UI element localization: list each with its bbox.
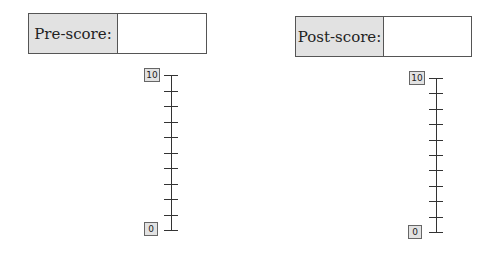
post-score-label: Post-score: bbox=[296, 17, 384, 56]
pre-scale-tick bbox=[164, 230, 178, 231]
pre-scale-tick bbox=[164, 75, 178, 76]
post-scale-tick bbox=[429, 201, 443, 202]
post-scale-tick bbox=[429, 78, 443, 79]
pre-scale-tick bbox=[164, 153, 178, 154]
pre-scale-tick bbox=[164, 137, 178, 138]
pre-score-label: Pre-score: bbox=[29, 14, 118, 53]
post-scale-tick bbox=[429, 124, 443, 125]
post-scale-tick bbox=[429, 109, 443, 110]
pre-scale-tick bbox=[164, 184, 178, 185]
pre-scale-tick bbox=[164, 168, 178, 169]
post-scale-tick bbox=[429, 93, 443, 94]
post-scale-tick bbox=[429, 186, 443, 187]
post-scale-tick bbox=[429, 155, 443, 156]
pre-score-box: Pre-score: bbox=[28, 13, 207, 54]
post-scale-min-label: 0 bbox=[408, 225, 422, 239]
post-scale-max-label: 10 bbox=[409, 71, 425, 85]
pre-scale-tick bbox=[164, 106, 178, 107]
pre-scale-tick bbox=[164, 199, 178, 200]
pre-score-field[interactable] bbox=[118, 14, 206, 53]
post-score-box: Post-score: bbox=[295, 16, 472, 57]
post-scale-tick bbox=[429, 217, 443, 218]
pre-scale-tick bbox=[164, 91, 178, 92]
pre-scale-tick bbox=[164, 122, 178, 123]
post-scale-tick bbox=[429, 170, 443, 171]
pre-scale-max-label: 10 bbox=[144, 68, 160, 82]
pre-scale-min-label: 0 bbox=[144, 222, 158, 236]
pre-scale-tick bbox=[164, 215, 178, 216]
post-scale-tick bbox=[429, 232, 443, 233]
post-score-field[interactable] bbox=[384, 17, 471, 56]
post-scale-tick bbox=[429, 140, 443, 141]
